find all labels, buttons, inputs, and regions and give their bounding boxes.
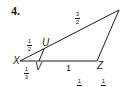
- label-xv: 1 3: [24, 66, 29, 80]
- label-top-side: 3 2: [75, 11, 80, 25]
- label-top-side-num: 3: [76, 11, 79, 17]
- segment-x-top: [20, 10, 119, 61]
- answer-choice-partial-2: 1: [101, 78, 106, 86]
- label-xv-den: 3: [25, 74, 28, 80]
- label-xv-num: 1: [25, 66, 28, 72]
- vertex-label-v: V: [35, 62, 42, 72]
- problem-number: 4.: [11, 5, 20, 17]
- vertex-label-u: U: [42, 38, 49, 48]
- answer-choice-num: 1: [102, 78, 105, 84]
- label-vz: 1: [66, 64, 71, 73]
- fraction-bar: [101, 85, 106, 86]
- label-xu: 1 2: [27, 38, 32, 52]
- label-xu-num: 1: [28, 38, 31, 44]
- answer-choice-num: 1: [78, 78, 81, 84]
- fraction-bar: [77, 85, 82, 86]
- segment-top-z: [97, 10, 119, 61]
- answer-choice-partial-1: 1: [77, 78, 82, 86]
- vertex-label-z: Z: [97, 61, 103, 71]
- label-top-side-den: 2: [76, 19, 79, 25]
- label-xu-den: 2: [28, 46, 31, 52]
- vertex-label-x: X: [13, 56, 20, 66]
